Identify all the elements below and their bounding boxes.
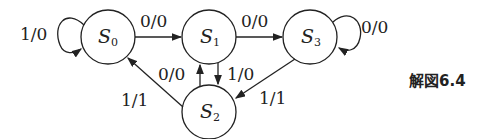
edge-label-s3-s3: 0/0 [361, 17, 388, 37]
edge-label-s1-s3: 0/0 [241, 11, 268, 31]
figure-caption: 解図6.4 [409, 72, 466, 90]
state-s2-label: S2 [200, 100, 220, 124]
state-diagram: S0 S1 S2 S3 1/0 0/0 0/0 0/0 1/0 0/0 1/1 … [0, 0, 485, 139]
edge-s0-s0 [58, 18, 84, 53]
edge-label-s2-s0: 1/1 [121, 90, 148, 110]
edge-label-s2-s1: 0/0 [158, 64, 185, 84]
state-s1-label: S1 [200, 25, 220, 49]
state-s0-label: S0 [98, 25, 118, 49]
edge-label-s0-s1: 0/0 [140, 11, 167, 31]
edge-label-s0-s0: 1/0 [20, 24, 47, 44]
state-s3-label: S3 [301, 25, 321, 49]
edge-label-s3-s2: 1/1 [259, 88, 286, 108]
edge-label-s1-s2: 1/0 [227, 64, 254, 84]
